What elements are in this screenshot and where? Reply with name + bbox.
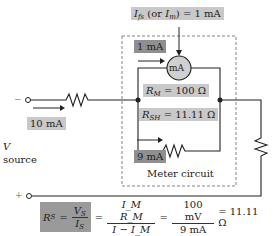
shunt-current-label: 9 mA xyxy=(134,150,166,163)
series-resistor xyxy=(31,94,139,106)
plus-terminal xyxy=(27,194,32,199)
total-current-label: 10 mA xyxy=(27,117,66,130)
source-symbol: V xyxy=(3,140,10,153)
meter-symbol: mA xyxy=(169,62,184,75)
shunt-equation: RS = VSIS = I_M R_MI − I_M = 100 mV9 mA … xyxy=(40,202,273,232)
meter-circuit-label: Meter circuit xyxy=(147,167,214,180)
meter-current-label: 1 mA xyxy=(134,40,166,53)
minus-terminal xyxy=(26,98,31,103)
rm-label: RM = 100 Ω xyxy=(143,84,209,97)
full-scale-current-label: Ifs (or Im) = 1 mA xyxy=(131,7,224,20)
rsh-label: RSH = 11.11 Ω xyxy=(139,108,218,121)
minus-sign: − xyxy=(14,93,22,106)
plus-sign: + xyxy=(15,189,23,202)
equation-highlight: RS = VSIS xyxy=(40,202,91,232)
source-label: source xyxy=(3,153,37,166)
